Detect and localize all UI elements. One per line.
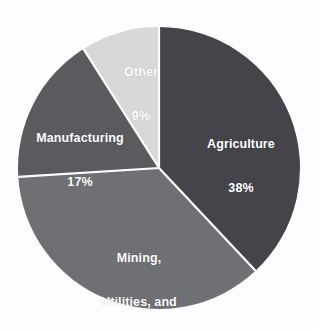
pie-chart-graphic	[0, 0, 319, 330]
pie-chart-figure: Agriculture 38% Mining, Utilities, and C…	[0, 0, 319, 330]
